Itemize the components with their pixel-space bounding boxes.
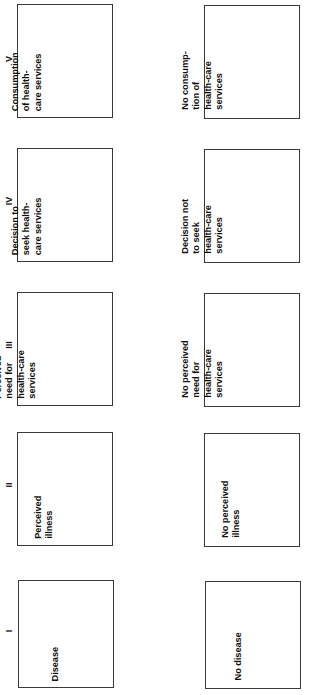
- node-label: Decision not to seek health-care service…: [180, 152, 226, 254]
- node-box-disease: Disease: [18, 580, 114, 688]
- node-label: No perceived illness: [220, 436, 243, 538]
- node-label: Disease: [50, 581, 61, 681]
- node-label: Perceived need for health-care services: [0, 293, 39, 399]
- node-box-no-perceived-need-for-health-care-services: No perceived need for health-care servic…: [204, 293, 300, 407]
- stage-numeral-1: I: [4, 624, 14, 638]
- node-label: No consump- tion of health-care services: [180, 8, 226, 110]
- stage-band-2: II Perceived illness No perceived illnes…: [0, 432, 322, 548]
- node-label: No perceived need for health-care servic…: [180, 296, 226, 398]
- node-box-consumption-of-health-care-services: Consumption of health- care services: [17, 4, 113, 118]
- flowchart-diagram: V Consumption of health- care services N…: [0, 0, 322, 695]
- node-box-no-consumption-of-health-care-services: No consump- tion of health-care services: [204, 5, 300, 119]
- node-box-decision-to-seek-health-care-services: Decision to seek health- care services: [17, 148, 113, 262]
- node-box-no-disease: No disease: [205, 581, 301, 689]
- node-box-decision-not-to-seek-health-care-services: Decision not to seek health-care service…: [204, 149, 300, 263]
- node-label: Decision to seek health- care services: [10, 149, 44, 255]
- node-label: Consumption of health- care services: [10, 5, 44, 111]
- node-label: No disease: [233, 580, 244, 680]
- stage-band-1: I Disease No disease: [0, 580, 322, 690]
- node-box-perceived-illness: Perceived illness: [17, 432, 113, 546]
- stage-band-4: IV Decision to seek health- care service…: [0, 148, 322, 264]
- stage-band-3: III Perceived need for health-care servi…: [0, 292, 322, 408]
- node-box-no-perceived-illness: No perceived illness: [204, 433, 300, 547]
- stage-numeral-2: II: [4, 478, 14, 492]
- node-box-perceived-need-for-health-care-services: Perceived need for health-care services: [17, 292, 113, 406]
- node-label: Perceived illness: [33, 433, 56, 539]
- stage-band-5: V Consumption of health- care services N…: [0, 4, 322, 120]
